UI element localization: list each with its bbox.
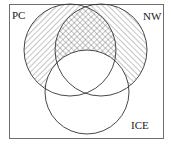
label-ice: ICE (131, 119, 149, 131)
venn-diagram: PC NW ICE (0, 0, 171, 146)
label-nw: NW (143, 10, 162, 22)
label-pc: PC (12, 9, 25, 21)
